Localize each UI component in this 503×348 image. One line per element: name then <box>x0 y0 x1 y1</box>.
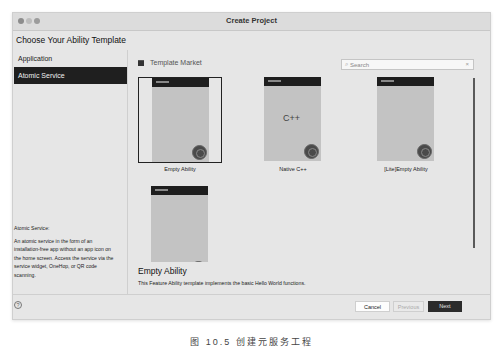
template-label: [Lite]Empty Ability <box>364 166 448 172</box>
template-detail-title: Empty Ability <box>138 266 187 276</box>
template-scrollbar[interactable] <box>473 78 475 248</box>
harmony-badge-icon <box>417 144 432 159</box>
sidebar-item-atomic-service[interactable]: Atomic Service <box>14 67 127 84</box>
cpp-icon: C++ <box>283 113 300 123</box>
template-card-4[interactable] <box>138 186 222 262</box>
template-card-empty-ability[interactable]: Empty Ability <box>138 77 222 172</box>
phone-status-bar <box>152 78 209 87</box>
template-label: Native C++ <box>251 166 335 172</box>
template-label: Empty Ability <box>138 166 222 172</box>
cancel-button[interactable]: Cancel <box>355 301 390 312</box>
store-icon <box>138 60 144 66</box>
sidebar-item-application[interactable]: Application <box>14 50 127 67</box>
phone-preview <box>151 186 208 262</box>
template-preview-frame: C++ <box>251 77 335 163</box>
template-panel: Template Market ⌕ Search × Empty Ability… <box>127 50 477 294</box>
template-market-text: Template Market <box>150 59 202 66</box>
window-title: Create Project <box>13 16 490 25</box>
template-detail-description: This Feature Ability template implements… <box>138 280 305 286</box>
harmony-badge-icon <box>191 261 206 262</box>
harmony-badge-icon <box>304 144 319 159</box>
phone-status-bar <box>151 186 208 195</box>
phone-status-bar <box>377 77 434 86</box>
search-placeholder: Search <box>350 62 369 68</box>
footer-divider <box>12 294 491 295</box>
template-card-native-cpp[interactable]: C++ Native C++ <box>251 77 335 172</box>
search-input[interactable]: ⌕ Search × <box>341 59 474 70</box>
page-heading: Choose Your Ability Template <box>16 35 126 45</box>
template-market-label: Template Market <box>138 59 202 66</box>
title-bar: Create Project <box>13 13 490 31</box>
figure-caption: 图 10.5 创建元服务工程 <box>0 335 503 348</box>
search-icon: ⌕ <box>345 61 348 68</box>
next-button[interactable]: Next <box>428 301 462 312</box>
help-icon[interactable]: ? <box>14 301 22 309</box>
template-card-lite-empty-ability[interactable]: [Lite]Empty Ability <box>364 77 448 172</box>
phone-preview <box>377 77 434 161</box>
template-preview-frame <box>138 186 222 262</box>
phone-preview <box>152 78 209 162</box>
phone-preview: C++ <box>264 77 321 161</box>
previous-button[interactable]: Previous <box>393 301 424 312</box>
template-preview-frame <box>364 77 448 163</box>
sidebar-info-description: An atomic service in the form of an inst… <box>14 237 114 280</box>
harmony-badge-icon <box>192 145 207 160</box>
sidebar-info-title: Atomic Service: <box>14 224 114 233</box>
phone-status-bar <box>264 77 321 86</box>
close-icon[interactable]: × <box>465 61 469 67</box>
template-preview-frame <box>138 77 222 163</box>
sidebar-info: Atomic Service: An atomic service in the… <box>14 224 114 280</box>
